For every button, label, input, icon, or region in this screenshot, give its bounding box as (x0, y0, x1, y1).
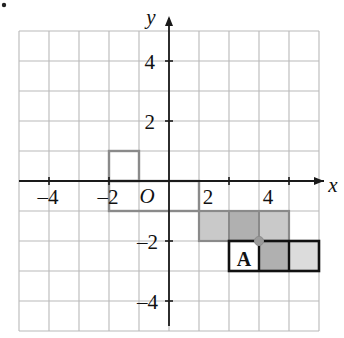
y-tick-label--2: –2 (136, 230, 158, 254)
x-tick-label-2: 2 (203, 185, 214, 209)
image-lower-cell-c (289, 241, 319, 271)
preimage-upper-cell (109, 151, 139, 181)
x-tick-label-4: 4 (263, 185, 274, 209)
x-tick-label--4: –4 (37, 185, 60, 209)
pivot-point-marker (254, 236, 263, 245)
y-tick-label-2: 2 (145, 110, 156, 134)
image-upper-dark-cell (229, 211, 259, 241)
y-axis-label: y (144, 5, 156, 29)
y-tick-label-4: 4 (145, 50, 156, 74)
x-tick-label--2: –2 (97, 185, 119, 209)
image-lower-cell-b (259, 241, 289, 271)
y-tick-label--4: –4 (136, 290, 159, 314)
corner-bullet-mark (2, 3, 6, 7)
axes (19, 18, 324, 326)
grid-svg: –4 –2 2 4 4 2 –2 –4 O x y A (0, 0, 344, 338)
x-axis-label: x (327, 173, 338, 197)
shape-label-a: A (237, 248, 252, 270)
origin-label: O (139, 184, 154, 208)
y-axis-arrow (165, 16, 173, 26)
coordinate-grid-figure: –4 –2 2 4 4 2 –2 –4 O x y A (0, 0, 344, 338)
